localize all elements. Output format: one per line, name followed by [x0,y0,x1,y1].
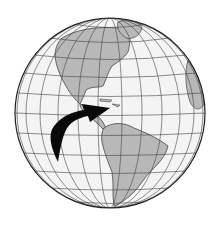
globe-icon [0,0,222,226]
globe-illustration [0,0,222,226]
